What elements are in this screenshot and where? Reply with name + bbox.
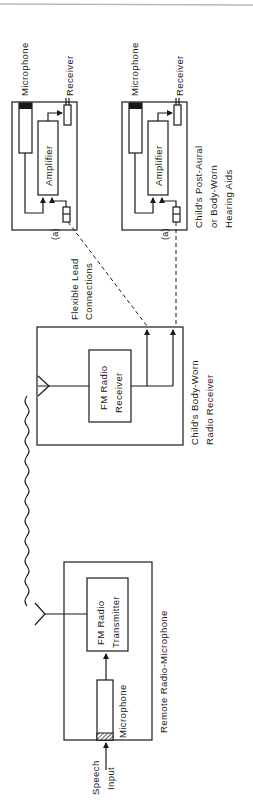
receiver-icon xyxy=(64,105,71,125)
top-rule xyxy=(0,4,253,5)
svg-text:Transmitter: Transmitter xyxy=(110,596,121,648)
antenna-icon xyxy=(38,376,89,396)
hearing-aid-1: Microphone Receiver Amplifier (a) xyxy=(12,42,77,240)
connector-a-icon xyxy=(63,207,70,222)
microphone-icon xyxy=(129,103,142,153)
svg-text:Child's Post-Aural: Child's Post-Aural xyxy=(193,146,204,228)
fm-radio-transmitter-label: FM Radio xyxy=(95,601,106,645)
connector-label: (a) xyxy=(50,228,60,240)
microphone-label: Microphone xyxy=(117,684,128,738)
microphone-icon xyxy=(97,680,113,740)
svg-text:Flexible Lead: Flexible Lead xyxy=(69,258,80,320)
svg-text:Receiver: Receiver xyxy=(113,372,124,413)
svg-text:Speech: Speech xyxy=(90,760,101,795)
remote-radio-microphone: FM Radio Transmitter Microphone Remote R… xyxy=(35,562,169,740)
svg-text:Hearing Aids: Hearing Aids xyxy=(223,169,234,228)
amplifier-label: Amplifier xyxy=(153,145,164,186)
diagram-canvas: Microphone Receiver Amplifier (a) Microp… xyxy=(0,0,253,810)
body-worn-receiver-caption: Child's Body-Worn xyxy=(189,360,200,445)
connector-a-icon xyxy=(173,207,180,222)
fm-radio-receiver-label: FM Radio xyxy=(98,366,109,410)
svg-text:Radio Receiver: Radio Receiver xyxy=(204,374,215,445)
connector-label: (a) xyxy=(160,228,170,240)
speech-input-label: Speech Input xyxy=(90,760,116,795)
microphone-label: Microphone xyxy=(129,42,140,96)
hearing-aid-2: Microphone Receiver Amplifier (a) xyxy=(122,42,187,240)
antenna-icon xyxy=(35,603,87,625)
amplifier-label: Amplifier xyxy=(43,145,54,186)
fm-radio-transmitter-block xyxy=(87,578,128,651)
svg-text:Input: Input xyxy=(105,767,116,790)
svg-text:Connections: Connections xyxy=(83,263,94,320)
transmitter-caption: Remote Radio-Microphone xyxy=(158,610,169,733)
fm-radio-receiver-block xyxy=(89,350,131,422)
receiver-label: Receiver xyxy=(174,55,185,96)
svg-text:or Body-Worn: or Body-Worn xyxy=(208,165,219,228)
radio-wave-icon xyxy=(25,396,29,606)
receiver-icon xyxy=(174,105,181,125)
body-worn-receiver: FM Radio Receiver Child's Body-Worn Radi… xyxy=(37,327,215,445)
hearing-aids-caption: Child's Post-Aural or Body-Worn Hearing … xyxy=(193,146,234,228)
flexible-leads-caption: Flexible Lead Connections xyxy=(69,258,94,320)
microphone-icon xyxy=(19,103,32,153)
microphone-label: Microphone xyxy=(19,42,30,96)
receiver-label: Receiver xyxy=(64,55,75,96)
